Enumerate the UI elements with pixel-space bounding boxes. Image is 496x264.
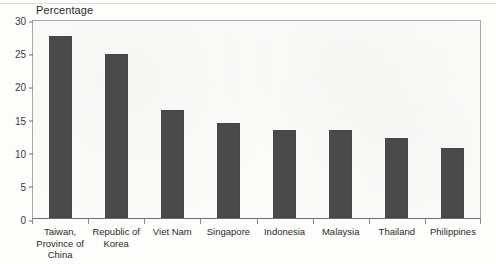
x-axis-label-line: Malaysia bbox=[314, 226, 368, 238]
bar bbox=[161, 110, 184, 218]
bar bbox=[385, 138, 408, 218]
y-axis-tick-mark bbox=[29, 54, 33, 55]
y-axis-tick: 15 bbox=[1, 115, 33, 126]
bar-slot bbox=[312, 21, 368, 218]
y-axis-tick: 0 bbox=[1, 215, 33, 226]
x-axis-label-line: Indonesia bbox=[258, 226, 312, 238]
chart-figure: Percentage 302520151050 Taiwan,Province … bbox=[0, 0, 496, 264]
x-axis-label-line: China bbox=[33, 249, 87, 261]
x-axis-label-line: Singapore bbox=[201, 226, 255, 238]
bar-slot bbox=[368, 21, 424, 218]
y-axis-tick-mark bbox=[29, 187, 33, 188]
y-axis-tick-mark bbox=[29, 21, 33, 22]
x-axis-label-line: Philippines bbox=[426, 226, 480, 238]
bar-slot bbox=[424, 21, 480, 218]
bar bbox=[217, 123, 240, 218]
x-axis-labels: Taiwan,Province ofChinaRepublic ofKoreaV… bbox=[32, 226, 481, 261]
y-axis-title: Percentage bbox=[36, 4, 93, 16]
x-axis-label-line: Taiwan, bbox=[33, 226, 87, 238]
plot-area: 302520151050 bbox=[32, 20, 481, 219]
y-axis-tick: 30 bbox=[1, 16, 33, 27]
y-axis-tick: 25 bbox=[1, 49, 33, 60]
bar bbox=[273, 130, 296, 218]
bar bbox=[329, 130, 352, 218]
x-axis-tick bbox=[257, 219, 313, 224]
x-axis-tick bbox=[32, 219, 88, 224]
x-axis-label: Indonesia bbox=[257, 226, 313, 261]
bar-slot bbox=[201, 21, 257, 218]
bar-slot bbox=[257, 21, 313, 218]
y-axis-tick: 20 bbox=[1, 82, 33, 93]
x-axis-tick bbox=[200, 219, 256, 224]
x-axis-label-line: Korea bbox=[89, 238, 143, 250]
x-axis-tick bbox=[313, 219, 369, 224]
bar-slot bbox=[33, 21, 89, 218]
x-axis-label: Thailand bbox=[369, 226, 425, 261]
y-axis-tick-mark bbox=[29, 154, 33, 155]
bar bbox=[441, 148, 464, 218]
x-axis-label: Taiwan,Province ofChina bbox=[32, 226, 88, 261]
x-axis-tick bbox=[369, 219, 425, 224]
x-axis-ticks bbox=[32, 219, 481, 224]
x-axis-label: Philippines bbox=[425, 226, 481, 261]
x-axis-label: Singapore bbox=[200, 226, 256, 261]
x-axis-tick bbox=[88, 219, 144, 224]
bar-slot bbox=[89, 21, 145, 218]
x-axis-label: Republic ofKorea bbox=[88, 226, 144, 261]
y-axis-tick-mark bbox=[29, 87, 33, 88]
x-axis-tick bbox=[144, 219, 200, 224]
x-axis-tick bbox=[425, 219, 481, 224]
bar-series bbox=[33, 21, 480, 218]
x-axis-label-line: Province of bbox=[33, 238, 87, 250]
x-axis-label-line: Viet Nam bbox=[145, 226, 199, 238]
x-axis-label: Malaysia bbox=[313, 226, 369, 261]
y-axis-tick-mark bbox=[29, 121, 33, 122]
x-axis-label-line: Republic of bbox=[89, 226, 143, 238]
y-axis-tick: 5 bbox=[1, 181, 33, 192]
x-axis-label: Viet Nam bbox=[144, 226, 200, 261]
x-axis-label-line: Thailand bbox=[370, 226, 424, 238]
bar-slot bbox=[145, 21, 201, 218]
bar bbox=[105, 54, 128, 218]
y-axis-tick: 10 bbox=[1, 148, 33, 159]
bar bbox=[49, 36, 72, 218]
